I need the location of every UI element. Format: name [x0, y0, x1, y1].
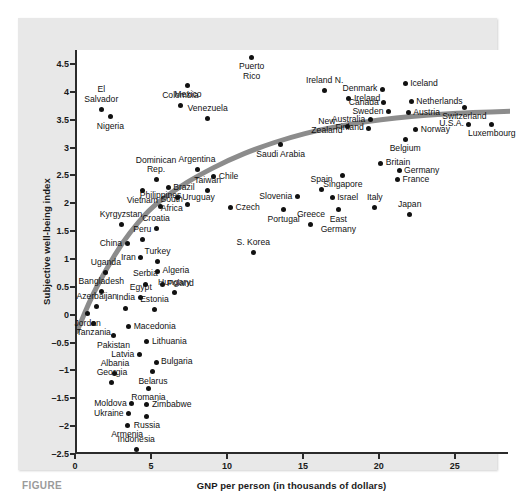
x-tick-mark — [454, 454, 456, 459]
data-point — [119, 222, 124, 227]
data-point — [386, 109, 391, 114]
data-point-label: Indonesia — [118, 435, 155, 445]
data-point-label: Turkey — [145, 247, 171, 257]
x-tick-label: 25 — [435, 461, 475, 471]
data-point — [368, 117, 373, 122]
data-point-label: Estonia — [140, 295, 169, 305]
data-point — [108, 114, 113, 119]
data-point — [372, 205, 377, 210]
data-point-label: Iceland — [410, 79, 438, 89]
data-point — [85, 311, 90, 316]
y-tick-mark — [70, 286, 75, 288]
figure-panel: Puerto RicoMexicoEl SalvadorColombiaNige… — [18, 18, 497, 470]
data-point — [295, 194, 300, 199]
data-point — [185, 83, 190, 88]
data-point-label: Portugal — [268, 215, 300, 225]
data-point-label: Iran — [121, 253, 136, 263]
data-point-label: Georgia — [97, 368, 128, 378]
data-point-label: S. Korea — [237, 238, 270, 248]
data-point-label: Netherlands — [416, 97, 462, 107]
x-tick-mark — [378, 454, 380, 459]
data-point — [397, 168, 402, 173]
x-tick-label: 0 — [55, 461, 95, 471]
data-point-label: India — [116, 293, 135, 303]
data-point-label: Italy — [367, 193, 383, 203]
data-point-label: Bangladesh — [79, 277, 124, 287]
scatter-plot-area: Puerto RicoMexicoEl SalvadorColombiaNige… — [75, 50, 508, 454]
data-point-label: Luxembourg — [468, 129, 516, 139]
data-point-label: Nigeria — [97, 122, 124, 132]
data-point-label: Venezuela — [188, 104, 228, 114]
x-tick-mark — [226, 454, 228, 459]
data-point-label: Israel — [337, 193, 358, 203]
data-point — [138, 255, 143, 260]
data-point-label: Czech — [235, 203, 259, 213]
y-tick-mark — [70, 342, 75, 344]
data-point — [228, 205, 233, 210]
figure-caption-label: FIGURE — [22, 480, 62, 491]
data-point-label: Austria — [413, 108, 440, 118]
data-point — [381, 100, 386, 105]
data-point — [409, 99, 414, 104]
data-point — [144, 402, 149, 407]
data-point — [336, 207, 341, 212]
data-point — [144, 339, 149, 344]
data-point — [94, 304, 99, 309]
data-point — [144, 414, 149, 419]
data-point-label: Macedonia — [134, 322, 176, 332]
x-tick-mark — [150, 454, 152, 459]
data-point-label: Lithuania — [152, 337, 187, 347]
data-point — [99, 107, 104, 112]
y-tick-label: –1.5 — [35, 393, 69, 403]
data-point-label: Dominican Rep. — [136, 156, 177, 175]
data-point — [403, 137, 408, 142]
data-point — [403, 81, 408, 86]
y-tick-label: 4 — [35, 87, 69, 97]
data-point — [109, 380, 114, 385]
data-point — [489, 122, 494, 127]
data-point — [137, 352, 142, 357]
data-point-label: Zimbabwe — [152, 400, 192, 410]
y-tick-mark — [70, 425, 75, 427]
data-point-label: East Germany — [321, 215, 356, 234]
y-tick-mark — [70, 369, 75, 371]
data-point-label: Puerto Rico — [239, 62, 264, 81]
data-point — [278, 142, 283, 147]
y-tick-mark — [70, 119, 75, 121]
data-point-label: China — [100, 239, 122, 249]
y-tick-mark — [70, 63, 75, 65]
data-point — [123, 306, 128, 311]
data-point-label: Norway — [421, 125, 450, 135]
data-point-label: Greece — [297, 210, 325, 220]
data-point-label: South Africa — [160, 195, 182, 214]
data-point-label: Uganda — [91, 258, 121, 268]
data-point-label: Algeria — [163, 266, 190, 276]
data-point — [395, 177, 400, 182]
data-point — [281, 207, 286, 212]
data-point-label: New Zealand — [311, 117, 342, 136]
data-point-label: Taiwan — [194, 176, 221, 186]
data-point — [340, 173, 345, 178]
data-point-label: Bulgaria — [161, 357, 193, 367]
data-point — [407, 212, 412, 217]
y-tick-mark — [70, 258, 75, 260]
data-point — [154, 177, 159, 182]
y-tick-label: –2.5 — [35, 449, 69, 459]
data-point-label: Croatia — [142, 214, 170, 224]
y-tick-label: 4.5 — [35, 59, 69, 69]
y-tick-mark — [70, 202, 75, 204]
data-point-label: Hungary — [158, 278, 190, 288]
y-tick-mark — [70, 314, 75, 316]
data-point — [152, 307, 157, 312]
data-point — [126, 411, 131, 416]
data-point — [91, 321, 96, 326]
data-point — [330, 195, 335, 200]
data-point-label: Tanzania — [77, 328, 111, 338]
data-point — [345, 124, 350, 129]
data-point — [146, 386, 151, 391]
y-tick-mark — [70, 174, 75, 176]
y-tick-mark — [70, 147, 75, 149]
data-point — [178, 103, 183, 108]
data-point — [185, 202, 190, 207]
plot-inner: Puerto RicoMexicoEl SalvadorColombiaNige… — [77, 50, 508, 452]
